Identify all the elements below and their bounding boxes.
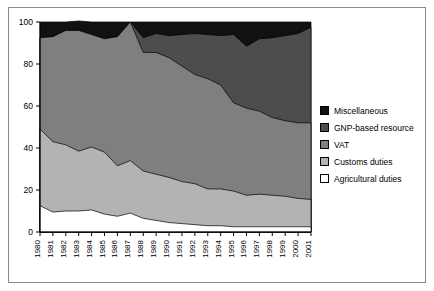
- x-tick-label: 1986: [110, 239, 119, 257]
- y-axis-ticks: [36, 22, 40, 232]
- legend-item[interactable]: Miscellaneous: [320, 104, 426, 117]
- legend-label: Miscellaneous: [334, 106, 388, 116]
- legend-label: Customs duties: [334, 157, 393, 167]
- legend-item[interactable]: VAT: [320, 138, 426, 151]
- x-tick-label: 1983: [72, 239, 81, 257]
- legend-label: VAT: [334, 140, 349, 150]
- legend-item[interactable]: GNP-based resource: [320, 121, 426, 134]
- x-tick-label: 1985: [98, 239, 107, 257]
- x-tick-label: 1982: [59, 239, 68, 257]
- x-tick-label: 1988: [136, 239, 145, 257]
- chart-legend: MiscellaneousGNP-based resourceVATCustom…: [320, 104, 426, 185]
- y-tick-label: 80: [24, 59, 34, 69]
- legend-label: Agricultural duties: [334, 174, 402, 184]
- y-axis-tick-labels: 020406080100: [19, 17, 33, 237]
- x-tick-label: 1999: [278, 239, 287, 257]
- legend-swatch: [320, 123, 329, 132]
- x-tick-label: 1998: [265, 239, 274, 257]
- legend-item[interactable]: Customs duties: [320, 155, 426, 168]
- x-tick-label: 2000: [291, 239, 300, 257]
- x-tick-label: 1990: [162, 239, 171, 257]
- plot-area: 020406080100 198019811982198319841985198…: [19, 17, 313, 258]
- x-tick-label: 1996: [239, 239, 248, 257]
- y-tick-label: 60: [24, 101, 34, 111]
- x-tick-label: 2001: [304, 239, 313, 257]
- y-tick-label: 100: [19, 17, 33, 27]
- x-tick-label: 1981: [46, 239, 55, 257]
- legend-swatch: [320, 140, 329, 149]
- legend-item[interactable]: Agricultural duties: [320, 172, 426, 185]
- y-tick-label: 0: [28, 227, 33, 237]
- x-tick-label: 1984: [85, 239, 94, 257]
- legend-label: GNP-based resource: [334, 123, 414, 133]
- figure-container: 020406080100 198019811982198319841985198…: [0, 0, 434, 291]
- x-axis-tick-labels: 1980198119821983198419851986198719881989…: [33, 239, 313, 257]
- area-series-group: [40, 21, 311, 232]
- x-tick-label: 1995: [227, 239, 236, 257]
- legend-swatch: [320, 106, 329, 115]
- legend-swatch: [320, 157, 329, 166]
- x-tick-label: 1997: [252, 239, 261, 257]
- x-axis-ticks: [40, 232, 311, 236]
- legend-swatch: [320, 174, 329, 183]
- x-tick-label: 1989: [149, 239, 158, 257]
- x-tick-label: 1992: [188, 239, 197, 257]
- y-tick-label: 20: [24, 185, 34, 195]
- x-tick-label: 1994: [214, 239, 223, 257]
- x-tick-label: 1991: [175, 239, 184, 257]
- x-tick-label: 1987: [123, 239, 132, 257]
- y-tick-label: 40: [24, 143, 34, 153]
- x-tick-label: 1980: [33, 239, 42, 257]
- x-tick-label: 1993: [201, 239, 210, 257]
